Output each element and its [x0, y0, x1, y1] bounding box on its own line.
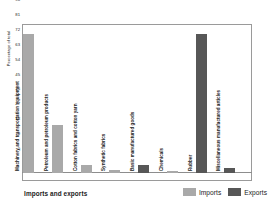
bar-exports[interactable] — [224, 168, 235, 173]
y-axis-tick-label: 63 — [15, 43, 20, 47]
bar-exports[interactable] — [196, 34, 207, 173]
bar-chart-figure: Percentage of total 90817263544536271890… — [0, 0, 275, 217]
chart-legend: Imports Exports — [183, 188, 267, 196]
bar-imports[interactable] — [109, 170, 120, 173]
bar-group: Machinery and transportation equipmentPe… — [22, 24, 252, 173]
y-axis-tick-label: 54 — [15, 57, 20, 61]
y-axis-tick-label: 45 — [15, 72, 20, 76]
legend-label-imports: Imports — [199, 189, 221, 196]
y-axis-tick-label: 72 — [15, 28, 20, 32]
bar-imports[interactable] — [167, 171, 178, 173]
x-axis-title: Imports and exports — [24, 190, 87, 197]
bar-category-label: Synthetic fabrics — [98, 134, 109, 171]
bar-category-label: Petroleum and petroleum products — [41, 94, 52, 171]
bar-imports[interactable] — [23, 34, 34, 173]
y-axis-tick-label: 81 — [15, 13, 20, 17]
bar-category-label: Basic manufactured goods — [127, 112, 138, 171]
bar-category-label: Chemicals — [156, 148, 167, 171]
plot-area: Machinery and transportation equipmentPe… — [22, 24, 252, 181]
bar-category-label: Rubber — [185, 155, 196, 171]
bar-category-label: Miscellaneous manufactured articles — [213, 90, 224, 171]
bar-imports[interactable] — [52, 125, 63, 173]
legend-swatch-exports-icon — [228, 188, 241, 196]
bar-slot: Miscellaneous manufactured articles — [223, 24, 252, 173]
bar-slot: Chemicals — [166, 24, 195, 173]
bar-imports[interactable] — [81, 165, 92, 173]
bar-category-label: Machinery and transportation equipment — [12, 81, 23, 171]
legend-label-exports: Exports — [244, 189, 267, 196]
legend-entry-imports[interactable]: Imports — [183, 188, 221, 196]
legend-entry-exports[interactable]: Exports — [228, 188, 267, 196]
bar-category-label: Cotton fabrics and cotton yarn — [70, 104, 81, 171]
y-axis-tick-label: 90 — [15, 0, 20, 2]
bar-exports[interactable] — [138, 165, 149, 173]
legend-swatch-imports-icon — [183, 188, 196, 196]
